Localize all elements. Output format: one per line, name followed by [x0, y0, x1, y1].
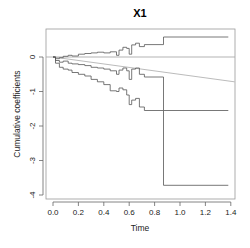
plot-frame — [46, 29, 235, 199]
x-tick-label: 0.8 — [149, 208, 161, 217]
chart: X1 0.00.20.40.60.81.01.21.4 0-1-2-3-4 Ti… — [0, 0, 250, 248]
x-tick-label: 0.0 — [47, 208, 59, 217]
x-axis-label: Time — [131, 223, 150, 233]
series-line-2 — [53, 57, 228, 185]
reference-lines — [46, 57, 235, 82]
series-line-0 — [53, 37, 228, 59]
data-series — [53, 37, 228, 185]
chart-title: X1 — [133, 7, 146, 19]
x-tick-label: 1.0 — [174, 208, 186, 217]
y-axis-label: Cumulative coefficients — [12, 70, 22, 157]
x-axis: 0.00.20.40.60.81.01.21.4 — [47, 202, 236, 217]
y-tick-label: -2 — [28, 122, 37, 130]
y-tick-label: -1 — [28, 87, 37, 95]
series-line-1 — [53, 57, 228, 111]
y-axis: 0-1-2-3-4 — [28, 54, 43, 198]
x-tick-label: 1.4 — [225, 208, 237, 217]
trend-line — [53, 57, 235, 82]
x-tick-label: 0.2 — [73, 208, 85, 217]
y-tick-label: -3 — [28, 156, 37, 164]
x-tick-label: 0.6 — [124, 208, 136, 217]
x-tick-label: 0.4 — [98, 208, 110, 217]
y-tick-label: 0 — [28, 54, 37, 59]
y-tick-label: -4 — [28, 191, 37, 199]
x-tick-label: 1.2 — [200, 208, 212, 217]
